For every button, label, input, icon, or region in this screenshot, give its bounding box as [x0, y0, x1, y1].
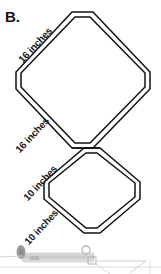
lower-diamond-inner: [49, 153, 135, 228]
scan-artifact: [0, 240, 161, 274]
figure-panel: B. 16 inches 16 inches 10 inches 10 inch…: [0, 0, 161, 274]
lower-diamond-outer: [44, 148, 140, 233]
